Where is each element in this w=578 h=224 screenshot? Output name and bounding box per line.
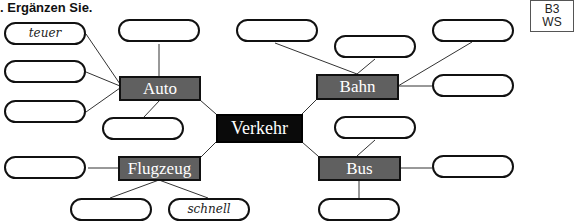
node-bus: Bus [318,156,401,181]
answer-bubble-auto-5[interactable] [102,117,184,140]
answer-bubble-bahn-2[interactable] [334,35,416,58]
answer-bubble-flugzeug-2[interactable] [70,198,152,221]
answer-bubble-flugzeug-3[interactable]: schnell [168,198,250,221]
node-flugzeug: Flugzeug [118,156,201,181]
answer-bubble-auto-4[interactable] [118,19,200,42]
node-bahn: Bahn [316,74,399,100]
answer-bubble-bus-3[interactable] [318,198,400,221]
answer-bubble-auto-2[interactable] [4,60,86,83]
answer-bubble-bus-2[interactable] [432,155,514,178]
answer-bubble-flugzeug-1[interactable] [4,156,86,179]
answer-bubble-bus-1[interactable] [334,116,416,139]
answer-bubble-bahn-4[interactable] [432,74,514,97]
answer-bubble-auto-3[interactable] [4,100,86,123]
node-auto: Auto [119,76,201,101]
center-node-verkehr: Verkehr [216,114,303,143]
answer-bubble-auto-1[interactable]: teuer [4,22,86,45]
answer-bubble-bahn-3[interactable] [432,19,514,42]
answer-bubble-bahn-1[interactable] [236,19,318,42]
